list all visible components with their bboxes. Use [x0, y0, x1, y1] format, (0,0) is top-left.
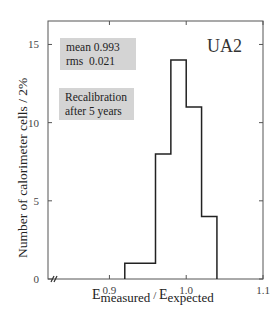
- note-line-1: Recalibration: [65, 90, 128, 104]
- mean-label: mean: [66, 41, 91, 53]
- y-tick-label: 5: [34, 195, 40, 207]
- note-line-2: after 5 years: [65, 104, 128, 118]
- histogram-outline: [125, 60, 217, 279]
- x-label-e2: E: [159, 287, 168, 302]
- x-label-sub1: measured: [101, 290, 151, 305]
- rms-value: 0.021: [89, 55, 115, 67]
- x-axis-label: Emeasured / Eexpected: [92, 287, 214, 306]
- x-label-e1: E: [92, 287, 101, 302]
- mean-value: 0.993: [94, 41, 120, 53]
- stats-box: mean 0.993 rms 0.021: [60, 38, 136, 70]
- x-label-sep: /: [150, 289, 159, 301]
- y-tick-label: 15: [28, 38, 40, 50]
- y-tick-label: 0: [34, 273, 40, 285]
- x-tick-label: 1.1: [256, 284, 270, 296]
- x-label-sub2: expected: [168, 290, 214, 305]
- y-axis-label: Number of calorimeter cells / 2%: [15, 78, 31, 258]
- chart-title: UA2: [207, 36, 242, 57]
- recalibration-note: Recalibration after 5 years: [59, 88, 134, 120]
- rms-label: rms: [66, 55, 83, 67]
